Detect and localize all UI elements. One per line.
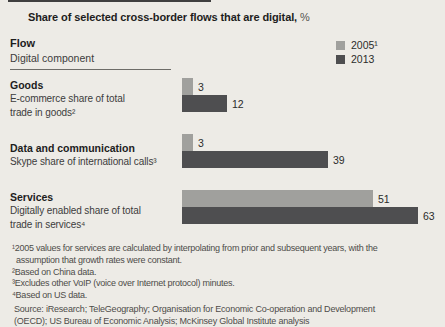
section-data-communication-bars: 3 39 xyxy=(182,134,345,168)
legend-swatch-2005 xyxy=(336,41,345,50)
bar-value-label: 63 xyxy=(423,210,435,222)
category-description: trade in goods² xyxy=(10,106,180,120)
bar-services-2013 xyxy=(182,207,418,224)
bar-value-label: 3 xyxy=(198,137,204,149)
legend-item-2005: 2005¹ xyxy=(336,38,378,52)
legend-label-2013: 2013 xyxy=(351,53,374,65)
bar-value-label: 39 xyxy=(333,154,345,166)
source-line-1: Source: iResearch; TeleGeography; Organi… xyxy=(14,304,375,316)
bar-data-2005 xyxy=(182,134,193,151)
footnote-1-continued: assumption that growth rates were consta… xyxy=(12,255,377,267)
bar-value-label: 51 xyxy=(378,193,390,205)
digital-component-label: Digital component xyxy=(10,52,94,64)
category-description: E-commerce share of total xyxy=(10,92,180,106)
legend-label-2005: 2005¹ xyxy=(351,39,378,51)
bar-row-2005: 3 xyxy=(182,78,244,95)
category-name: Services xyxy=(10,190,180,204)
source-line-2: (OECD); US Bureau of Economic Analysis; … xyxy=(14,316,375,327)
footnote-2: ²Based on China data. xyxy=(12,267,377,279)
exhibit-chart: Share of selected cross-border flows tha… xyxy=(0,0,445,327)
legend: 2005¹ 2013 xyxy=(336,38,378,66)
bar-services-2005 xyxy=(182,190,373,207)
chart-title-text: Share of selected cross-border flows tha… xyxy=(28,11,297,23)
section-data-communication-label: Data and communication Skype share of in… xyxy=(10,132,180,169)
header-underline xyxy=(10,69,171,70)
bar-data-2013 xyxy=(182,151,328,168)
bar-row-2013: 63 xyxy=(182,207,435,224)
chart-title: Share of selected cross-border flows tha… xyxy=(28,11,310,23)
bar-row-2005: 3 xyxy=(182,134,345,151)
bar-value-label: 12 xyxy=(232,98,244,110)
bar-row-2005: 51 xyxy=(182,190,435,207)
bar-goods-2013 xyxy=(182,95,227,112)
footnote-4: ⁴Based on US data. xyxy=(12,290,377,302)
section-goods-label: Goods E-commerce share of total trade in… xyxy=(10,76,180,119)
footnotes: ¹2005 values for services are calculated… xyxy=(12,243,377,302)
section-services-label: Services Digitally enabled share of tota… xyxy=(10,188,180,231)
source-attribution: Source: iResearch; TeleGeography; Organi… xyxy=(14,304,375,327)
category-description: trade in services⁴ xyxy=(10,218,180,232)
bar-row-2013: 12 xyxy=(182,95,244,112)
chart-title-unit: % xyxy=(297,11,310,23)
section-services-bars: 51 63 xyxy=(182,190,435,224)
bar-value-label: 3 xyxy=(198,81,204,93)
category-description: Skype share of international calls³ xyxy=(10,155,180,169)
bar-row-2013: 39 xyxy=(182,151,345,168)
flow-header-label: Flow xyxy=(10,37,35,49)
category-description: Digitally enabled share of total xyxy=(10,204,180,218)
legend-swatch-2013 xyxy=(336,55,345,64)
footnote-3: ³Excludes other VoIP (voice over Interne… xyxy=(12,278,377,290)
top-rule xyxy=(8,0,211,2)
section-goods-bars: 3 12 xyxy=(182,78,244,112)
category-name: Data and communication xyxy=(10,141,180,155)
bar-goods-2005 xyxy=(182,78,193,95)
category-name: Goods xyxy=(10,78,180,92)
footnote-1: ¹2005 values for services are calculated… xyxy=(12,243,377,255)
legend-item-2013: 2013 xyxy=(336,52,378,66)
